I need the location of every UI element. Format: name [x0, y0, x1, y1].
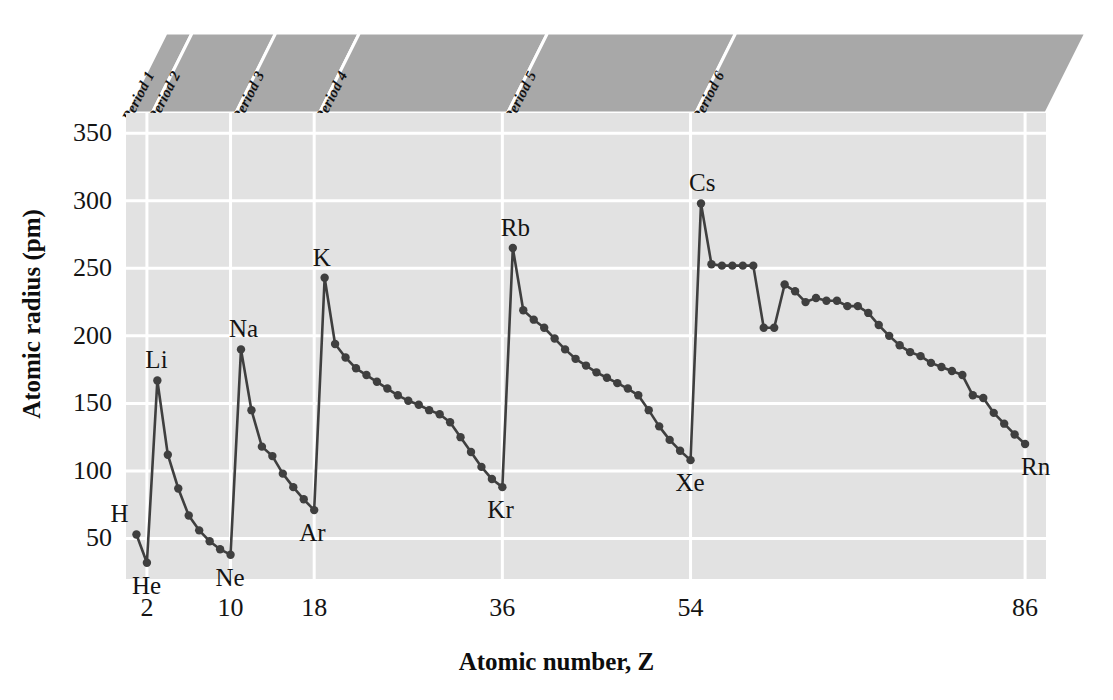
data-point — [185, 511, 193, 519]
data-point — [226, 550, 234, 558]
data-point — [937, 363, 945, 371]
plot-canvas — [126, 113, 1046, 579]
data-point — [801, 298, 809, 306]
atomic-radius-chart: Period 1Period 2Period 3Period 4Period 5… — [0, 0, 1113, 700]
data-point — [655, 422, 663, 430]
data-point — [885, 332, 893, 340]
data-point — [707, 260, 715, 268]
plot-area: HHeLiNeNaArKKrRbXeCsRn — [126, 113, 1046, 579]
data-point — [812, 294, 820, 302]
data-point — [958, 371, 966, 379]
data-point — [854, 302, 862, 310]
y-axis-title: Atomic radius (pm) — [18, 104, 46, 524]
data-point — [530, 315, 538, 323]
data-point — [435, 410, 443, 418]
element-label-rn: Rn — [1021, 454, 1050, 479]
data-point — [665, 436, 673, 444]
data-point — [404, 397, 412, 405]
y-tick-label: 350 — [0, 120, 112, 146]
data-point — [310, 506, 318, 514]
element-label-ne: Ne — [216, 565, 245, 590]
data-point — [467, 448, 475, 456]
data-point — [791, 287, 799, 295]
y-tick-label: 300 — [0, 188, 112, 214]
data-point — [289, 483, 297, 491]
data-point — [540, 324, 548, 332]
data-point — [833, 297, 841, 305]
data-point — [822, 297, 830, 305]
data-point — [739, 261, 747, 269]
data-point — [561, 345, 569, 353]
y-tick-label: 250 — [0, 255, 112, 281]
data-point — [205, 537, 213, 545]
x-tick-label: 2 — [107, 595, 187, 621]
data-point — [164, 451, 172, 459]
data-point — [843, 302, 851, 310]
data-point — [613, 379, 621, 387]
data-point — [320, 274, 328, 282]
data-point — [864, 309, 872, 317]
data-point — [331, 340, 339, 348]
data-point — [582, 361, 590, 369]
data-point — [132, 530, 140, 538]
period-banner-shape — [126, 33, 1086, 115]
data-point — [990, 409, 998, 417]
y-tick-label: 50 — [0, 525, 112, 551]
data-point — [415, 401, 423, 409]
data-point — [1010, 430, 1018, 438]
data-point — [195, 526, 203, 534]
data-point — [153, 376, 161, 384]
data-point — [237, 345, 245, 353]
data-point — [509, 244, 517, 252]
data-point — [697, 199, 705, 207]
x-tick-label: 10 — [191, 595, 271, 621]
data-point — [456, 433, 464, 441]
data-point — [394, 391, 402, 399]
x-tick-label: 54 — [651, 595, 731, 621]
data-point — [927, 359, 935, 367]
data-point — [143, 559, 151, 567]
x-tick-label: 86 — [985, 595, 1065, 621]
data-point — [718, 261, 726, 269]
period-band-6 — [696, 33, 1086, 113]
data-point — [258, 442, 266, 450]
data-point — [279, 469, 287, 477]
data-point — [216, 545, 224, 553]
element-label-ar: Ar — [299, 520, 325, 545]
element-label-h: H — [110, 501, 128, 526]
data-point — [875, 321, 883, 329]
data-point — [770, 324, 778, 332]
data-point — [425, 406, 433, 414]
element-label-rb: Rb — [501, 215, 530, 240]
data-point — [749, 261, 757, 269]
data-point — [1021, 440, 1029, 448]
data-point — [1000, 419, 1008, 427]
data-point — [906, 348, 914, 356]
data-point — [603, 374, 611, 382]
data-point — [634, 391, 642, 399]
data-point — [916, 352, 924, 360]
data-point — [352, 364, 360, 372]
data-point — [676, 446, 684, 454]
data-point — [979, 394, 987, 402]
element-label-na: Na — [229, 316, 258, 341]
data-point — [895, 341, 903, 349]
element-label-k: K — [313, 245, 331, 270]
data-point — [477, 463, 485, 471]
data-point — [645, 406, 653, 414]
data-point — [948, 367, 956, 375]
data-point — [373, 378, 381, 386]
data-point — [268, 452, 276, 460]
data-point — [519, 306, 527, 314]
x-axis-title: Atomic number, Z — [0, 648, 1113, 676]
y-tick-label: 100 — [0, 458, 112, 484]
data-point — [383, 384, 391, 392]
data-point — [300, 495, 308, 503]
data-point — [592, 368, 600, 376]
data-point — [686, 456, 694, 464]
data-point — [780, 280, 788, 288]
element-label-xe: Xe — [676, 470, 705, 495]
x-tick-label: 36 — [462, 595, 542, 621]
data-point — [550, 334, 558, 342]
data-point — [446, 418, 454, 426]
